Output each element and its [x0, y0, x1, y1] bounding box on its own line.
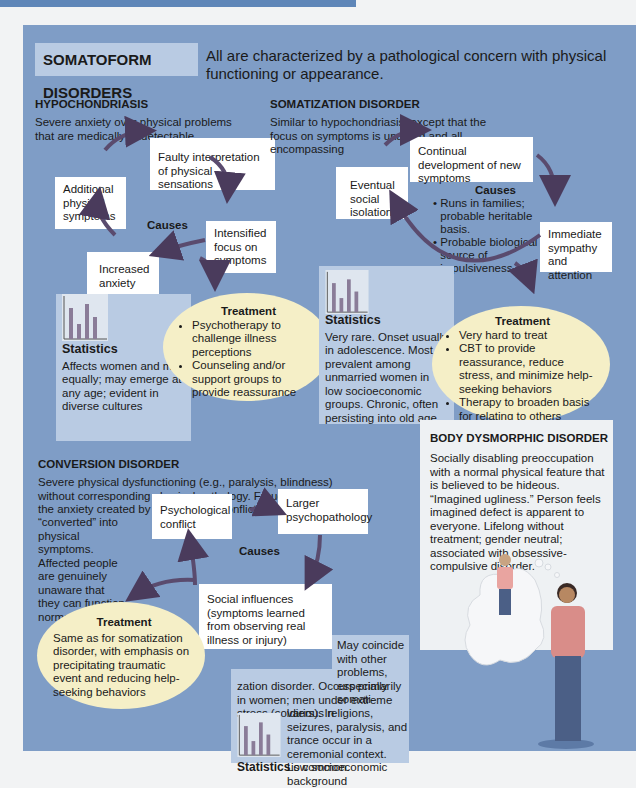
cycle-box-social-isolation: Eventual social isolation: [336, 167, 408, 219]
top-bar: [0, 0, 356, 7]
somatization-treatment: Treatment Very hard to treat CBT to prov…: [432, 306, 610, 422]
bar-chart-icon: [237, 713, 281, 757]
cycle-box-continual-development: Continual development of new symptoms: [410, 137, 533, 182]
cycle-box-psychological-conflict: Psychological conflict: [152, 494, 232, 539]
statistics-text: Affects women and men equally; may emerg…: [62, 360, 187, 414]
statistics-label: Statistics: [237, 761, 290, 775]
cycle-box-faulty-interpretation: Faulty interpretation of physical sensat…: [150, 138, 275, 190]
cycle-box-larger-psychopathology: Larger psychopathology: [278, 489, 368, 534]
treatment-text: Same as for somatization disorder, with …: [53, 632, 195, 700]
statistics-text-end: is common.: [291, 761, 350, 775]
treatment-item: Counseling and/or support groups to prov…: [192, 359, 317, 400]
cycle-box-intensified-focus: Intensified focus on symptoms: [206, 221, 276, 273]
page-title: SOMATOFORM DISORDERS: [35, 43, 198, 76]
causes-label: Causes: [433, 184, 558, 197]
treatment-item: Therapy to broaden basis for relating to…: [459, 396, 598, 423]
somatization-title: SOMATIZATION DISORDER: [270, 98, 420, 110]
statistics-text-side: various religions, seizures, paralysis, …: [287, 707, 409, 788]
statistics-text: Very rare. Onset usually in adolescence.…: [325, 331, 448, 426]
treatment-item: Very hard to treat: [459, 329, 598, 343]
cycle-box-additional-symptoms: Additional physical symptoms: [55, 177, 126, 229]
treatment-item: CBT to provide reassurance, reduce stres…: [459, 342, 598, 396]
conversion-title: CONVERSION DISORDER: [38, 458, 179, 470]
bar-chart-icon: [325, 270, 369, 314]
somatization-statistics: Statistics Very rare. Onset usually in a…: [319, 266, 454, 424]
treatment-label: Treatment: [180, 305, 317, 319]
treatment-label: Treatment: [447, 315, 598, 329]
body-dysmorphic-title: BODY DYSMORPHIC DISORDER: [430, 432, 608, 444]
treatment-item: Psychotherapy to challenge illness perce…: [192, 319, 317, 360]
cycle-box-immediate-sympathy: Immediate sympathy and attention: [540, 222, 612, 272]
causes-label: Causes: [239, 545, 280, 557]
causes-label: Causes: [147, 219, 188, 231]
intro-text: All are characterized by a pathological …: [206, 47, 626, 83]
conversion-treatment: Treatment Same as for somatization disor…: [37, 602, 205, 709]
conversion-statistics: May coincide with other problems, especi…: [231, 635, 409, 763]
body-dysmorphic-description: Socially disabling preoccupation with a …: [430, 452, 608, 574]
treatment-label: Treatment: [53, 616, 195, 630]
hypochondriasis-title: HYPOCHONDRIASIS: [35, 98, 148, 110]
statistics-label: Statistics: [325, 314, 448, 328]
bar-chart-icon: [62, 294, 108, 341]
body-dysmorphic-box: BODY DYSMORPHIC DISORDER Socially disabl…: [420, 420, 613, 650]
hypochondriasis-treatment: Treatment Psychotherapy to challenge ill…: [163, 293, 331, 401]
